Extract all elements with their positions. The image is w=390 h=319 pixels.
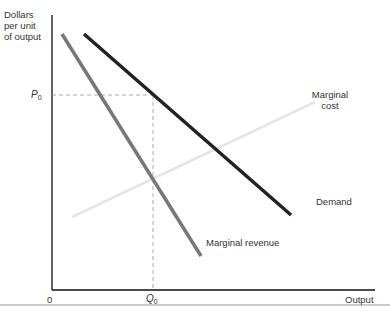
q-letter: Q — [146, 293, 154, 304]
y-axis-label: Dollars per unit of output — [4, 9, 41, 42]
marginal-revenue-line — [62, 34, 201, 256]
marginal-cost-label-line: cost — [312, 100, 348, 111]
x-axis-label: Output — [345, 294, 374, 305]
demand-label: Demand — [316, 196, 352, 207]
p-letter: P — [31, 89, 38, 100]
monopoly-chart — [0, 0, 390, 319]
marginal-cost-label: Marginal cost — [312, 89, 348, 111]
marginal-revenue-label: Marginal revenue — [206, 237, 279, 248]
marginal-cost-label-line: Marginal — [312, 89, 348, 100]
y-axis-label-line: of output — [4, 31, 41, 42]
origin-label: 0 — [47, 294, 52, 305]
q0-label: Q0 — [146, 293, 158, 307]
y-axis-label-line: per unit — [4, 20, 41, 31]
q-subscript: 0 — [154, 298, 158, 305]
demand-line — [84, 34, 291, 215]
p0-label: P0 — [31, 89, 42, 103]
marginal-cost-line — [72, 102, 315, 217]
y-axis-label-line: Dollars — [4, 9, 41, 20]
p-subscript: 0 — [38, 94, 42, 101]
